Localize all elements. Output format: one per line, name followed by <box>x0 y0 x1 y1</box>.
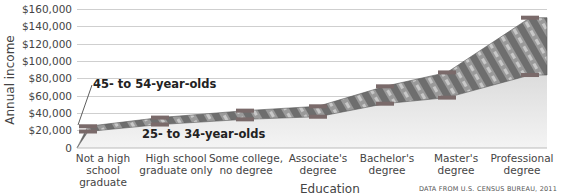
x-tick: Bachelor'sdegree <box>347 152 427 176</box>
data-point-marker <box>438 70 456 74</box>
x-tick: Not a highschoolgraduate <box>63 152 143 188</box>
data-point-marker <box>309 104 327 108</box>
data-point-marker <box>151 116 169 120</box>
series-label-45-54: 45- to 54-year-olds <box>93 77 216 91</box>
data-point-marker <box>521 16 539 20</box>
data-point-marker <box>236 109 254 113</box>
series-label-25-34: 25- to 34-year-olds <box>142 127 265 141</box>
data-point-marker <box>236 117 254 121</box>
data-point-marker <box>79 129 97 133</box>
data-point-marker <box>376 84 394 88</box>
data-point-marker <box>309 115 327 119</box>
data-point-marker <box>79 124 97 128</box>
x-tick: Some college,no degree <box>206 152 286 176</box>
data-point-marker <box>438 96 456 100</box>
label-leader-line <box>78 85 92 125</box>
data-point-marker <box>151 123 169 127</box>
x-tick: Professionaldegree <box>482 152 562 176</box>
data-point-marker <box>376 102 394 106</box>
source-note: DATA FROM U.S. CENSUS BUREAU, 2011 <box>419 185 557 193</box>
x-tick: High schoolgraduate only <box>136 152 216 176</box>
x-tick: Associate'sdegree <box>278 152 358 176</box>
x-axis-title: Education <box>300 182 360 196</box>
data-point-marker <box>521 73 539 77</box>
